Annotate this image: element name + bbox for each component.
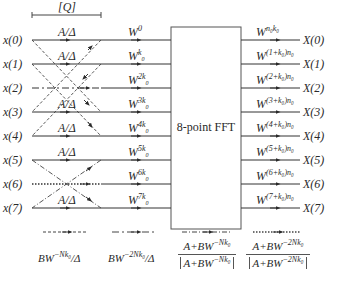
output-label: X(5) <box>303 154 324 166</box>
twiddle-in: W3k0 <box>128 98 149 112</box>
output-label: X(0) <box>303 34 324 46</box>
twiddle-in: Wk0 <box>128 50 145 64</box>
twiddle-out: W(5+k₀)n₀ <box>256 146 294 160</box>
twiddle-out: Wn₀k₀ <box>256 26 279 40</box>
output-label: X(6) <box>303 178 324 190</box>
input-label: x(0) <box>3 34 22 46</box>
output-label: X(1) <box>303 58 324 70</box>
output-label: X(7) <box>303 202 324 214</box>
twiddle-in: W2k0 <box>128 74 149 88</box>
branch-gain: A/Δ <box>58 146 76 158</box>
branch-gain: A/Δ <box>58 194 76 206</box>
input-label: x(2) <box>3 82 22 94</box>
twiddle-in: W5k0 <box>128 146 149 160</box>
twiddle-out: W(1+k₀)n₀ <box>256 50 294 64</box>
branch-gain: A/Δ <box>58 26 76 38</box>
input-label: x(7) <box>3 202 22 214</box>
fft-block-label: 8-point FFT <box>171 120 241 135</box>
input-label: x(4) <box>3 130 22 142</box>
twiddle-out: W(4+k₀)n₀ <box>256 122 294 136</box>
twiddle-out: W(2+k₀)n₀ <box>256 74 294 88</box>
output-label: X(2) <box>303 82 324 94</box>
input-label: x(6) <box>3 178 22 190</box>
twiddle-in: W4k0 <box>128 122 149 136</box>
output-label: X(4) <box>303 130 324 142</box>
legend-label-dash-dot-long: BW−2Nk₀/Δ <box>108 252 154 266</box>
legend-label-dotted: A+BW−2Nk₀ A+BW−2Nk₀ <box>246 240 310 269</box>
twiddle-in: W7k0 <box>128 194 149 208</box>
bracket-label: [Q] <box>58 1 76 13</box>
twiddle-out: W(7+k₀)n₀ <box>256 194 294 208</box>
twiddle-in: W0 <box>128 26 142 40</box>
branch-gain: A/Δ <box>58 122 76 134</box>
branch-gain: A/Δ <box>58 98 76 110</box>
branch-gain: A/Δ <box>58 50 76 62</box>
output-label: X(3) <box>303 106 324 118</box>
input-label: x(1) <box>3 58 22 70</box>
input-label: x(3) <box>3 106 22 118</box>
legend-label-dashed: BW−Nk₀/Δ <box>38 252 80 266</box>
twiddle-out: W(6+k₀)n₀ <box>256 170 294 184</box>
twiddle-in: W6k0 <box>128 170 149 184</box>
legend-label-dash-dot: A+BW−Nk₀ A+BW−Nk₀ <box>178 240 236 269</box>
input-label: x(5) <box>3 154 22 166</box>
twiddle-out: W(3+k₀)n₀ <box>256 98 294 112</box>
